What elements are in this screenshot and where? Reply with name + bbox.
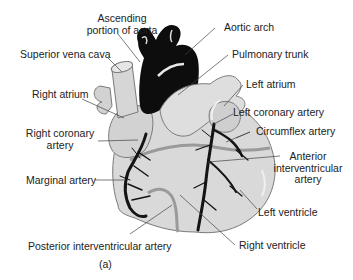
label-ascending-aorta: Ascending portion of aorta xyxy=(68,13,176,36)
label-ascending-aorta-line1: Ascending xyxy=(68,13,176,25)
label-aortic-arch: Aortic arch xyxy=(224,22,274,34)
heart-diagram: Ascending portion of aorta Superior vena… xyxy=(0,0,353,280)
label-anterior-iv-line3: artery xyxy=(268,174,348,186)
label-right-coronary-artery: Right coronary artery xyxy=(22,128,98,151)
label-superior-vena-cava: Superior vena cava xyxy=(20,49,110,61)
label-right-coronary-line2: artery xyxy=(22,140,98,152)
label-anterior-interventricular-artery: Anterior interventricular artery xyxy=(268,151,348,186)
figure-caption: (a) xyxy=(99,259,112,271)
label-circumflex-artery: Circumflex artery xyxy=(256,126,335,138)
label-right-atrium: Right atrium xyxy=(32,89,89,101)
label-right-ventricle: Right ventricle xyxy=(239,240,306,252)
label-left-atrium: Left atrium xyxy=(246,79,296,91)
label-anterior-iv-line1: Anterior xyxy=(268,151,348,163)
label-left-ventricle: Left ventricle xyxy=(258,207,318,219)
label-pulmonary-trunk: Pulmonary trunk xyxy=(232,49,308,61)
label-marginal-artery: Marginal artery xyxy=(26,175,96,187)
label-posterior-interventricular-artery: Posterior interventricular artery xyxy=(28,241,172,253)
label-ascending-aorta-line2: portion of aorta xyxy=(68,25,176,37)
label-left-coronary-artery: Left coronary artery xyxy=(233,107,324,119)
label-right-coronary-line1: Right coronary xyxy=(22,128,98,140)
